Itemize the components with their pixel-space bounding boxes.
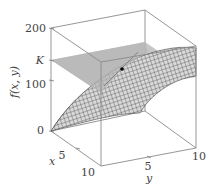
z-tick-200: 200: [25, 22, 46, 35]
surface-plot: 200 K 100 0 f(x, y) 5 x 10 5 y 10: [0, 0, 215, 193]
z-tick-K: K: [35, 54, 45, 67]
z-tick-100: 100: [25, 78, 46, 91]
level-point: [120, 67, 124, 71]
z-tick-0: 0: [37, 124, 44, 137]
z-axis-label: f(x, y): [8, 66, 21, 99]
x-tick-10: 10: [81, 166, 95, 179]
x-tick-5: 5: [59, 149, 66, 162]
x-axis-label: x: [49, 155, 56, 168]
y-tick-10: 10: [192, 150, 206, 163]
y-axis-label: y: [145, 172, 153, 185]
